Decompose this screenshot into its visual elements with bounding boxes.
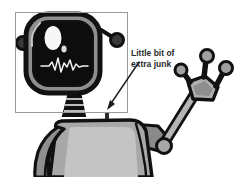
robot-torso-group: [35, 120, 170, 177]
eye-glint: [61, 45, 66, 52]
robot-head-group: [26, 14, 100, 93]
finger-right-tip: [220, 62, 233, 75]
extra-junk-artifact: [105, 112, 109, 119]
elbow-joint: [157, 139, 172, 154]
illustration-canvas: Little bit of extra junk: [0, 0, 245, 177]
head-screen: [33, 21, 93, 86]
annotation-label: Little bit of extra junk: [131, 48, 193, 70]
finger-mid-tip: [201, 50, 214, 63]
right-antenna-ball: [111, 34, 124, 47]
torso-panel: [64, 127, 138, 177]
annotation-label-line1: Little bit of: [131, 48, 193, 59]
annotation-label-line2: extra junk: [131, 59, 193, 70]
robot-illustration: [0, 0, 245, 177]
eye: [45, 26, 62, 50]
